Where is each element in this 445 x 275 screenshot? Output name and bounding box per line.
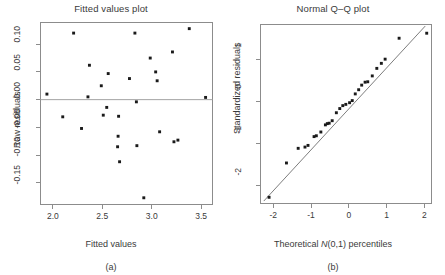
panel-fitted-values-plot: Fitted values plot Raw residuals 2.02.53…: [0, 0, 222, 275]
plot-canvas: [222, 0, 444, 275]
data-point: [285, 162, 288, 165]
data-point: [268, 196, 271, 199]
xlabel-prefix: Theoretical: [274, 239, 321, 249]
data-point: [335, 111, 338, 114]
panel-a-axes-overlay: 2.02.53.03.50.100.050.00-0.05-0.10-0.15: [0, 0, 222, 275]
y-tick-mark: [36, 155, 40, 156]
x-tick-label: -1: [307, 210, 315, 220]
data-point: [357, 88, 360, 91]
data-point: [156, 79, 159, 82]
panel-normal-qq-plot: Normal Q–Q plot Standardized residuals -…: [222, 0, 444, 275]
x-tick-label: 1: [384, 210, 389, 220]
data-point: [61, 115, 64, 118]
data-point: [338, 107, 341, 110]
data-point: [351, 99, 354, 102]
data-point: [331, 119, 334, 122]
panel-a-x-axis-label: Fitted values: [0, 239, 222, 249]
y-tick-label: 0: [233, 84, 243, 116]
data-point: [398, 37, 401, 40]
data-point: [133, 32, 136, 35]
x-tick-label: 2.5: [96, 211, 108, 221]
y-tick-mark: [36, 44, 40, 45]
data-point: [360, 84, 363, 87]
data-point: [118, 160, 121, 163]
x-tick-mark: [52, 205, 53, 209]
data-point: [425, 32, 428, 35]
data-point: [297, 147, 300, 150]
data-point: [158, 130, 161, 133]
x-tick-mark: [151, 205, 152, 209]
y-tick-mark: [256, 101, 260, 102]
panel-b-axes-overlay: -2-101210-1-2: [222, 0, 444, 275]
data-point: [80, 127, 83, 130]
data-point: [117, 135, 120, 138]
data-point: [45, 93, 48, 96]
data-point: [72, 32, 75, 35]
data-point: [116, 145, 119, 148]
data-point: [328, 122, 331, 125]
x-tick-mark: [311, 204, 312, 208]
data-point: [135, 100, 138, 103]
x-tick-label: 2: [422, 210, 427, 220]
data-point: [135, 144, 138, 147]
y-tick-label: -0.15: [12, 165, 22, 199]
y-tick-label: 1: [233, 43, 243, 75]
panel-b-caption: (b): [222, 262, 444, 272]
qq-reference-line: [264, 26, 425, 201]
x-tick-label: 2.0: [47, 211, 59, 221]
data-point: [307, 144, 310, 147]
data-point: [315, 134, 318, 137]
data-point: [344, 103, 347, 106]
data-point: [375, 67, 378, 70]
y-tick-label: -1: [233, 126, 243, 158]
y-tick-mark: [36, 182, 40, 183]
data-point: [105, 106, 108, 109]
data-point: [107, 72, 110, 75]
data-point: [188, 27, 191, 30]
data-point: [364, 81, 367, 84]
data-point: [176, 139, 179, 142]
x-tick-label: 3.0: [146, 211, 158, 221]
x-tick-label: 3.5: [195, 211, 207, 221]
data-point: [204, 96, 207, 99]
data-point: [384, 58, 387, 61]
data-point: [173, 140, 176, 143]
data-point: [100, 84, 103, 87]
data-point: [348, 101, 351, 104]
y-tick-mark: [256, 59, 260, 60]
panel-a-caption: (a): [0, 262, 222, 272]
x-tick-mark: [348, 204, 349, 208]
data-point: [128, 77, 131, 80]
data-point: [149, 57, 152, 60]
y-tick-label: -2: [233, 168, 243, 200]
y-tick-mark: [256, 185, 260, 186]
data-point: [371, 74, 374, 77]
data-point: [154, 70, 157, 73]
plot-canvas: [0, 0, 222, 275]
data-point: [366, 80, 369, 83]
data-point: [142, 196, 145, 199]
data-point: [380, 62, 383, 65]
x-tick-mark: [102, 205, 103, 209]
panel-b-x-axis-label: Theoretical N(0,1) percentiles: [222, 239, 444, 249]
y-tick-mark: [36, 127, 40, 128]
xlabel-suffix: (0,1) percentiles: [328, 239, 393, 249]
data-point: [341, 104, 344, 107]
y-tick-mark: [36, 99, 40, 100]
x-tick-label: -2: [269, 210, 277, 220]
data-point: [354, 92, 357, 95]
x-tick-label: 0: [346, 210, 351, 220]
data-point: [117, 115, 120, 118]
data-point: [171, 51, 174, 54]
x-tick-mark: [386, 204, 387, 208]
x-tick-mark: [273, 204, 274, 208]
x-tick-mark: [424, 204, 425, 208]
data-point: [304, 146, 307, 149]
data-point: [102, 114, 105, 117]
data-point: [87, 95, 90, 98]
x-tick-mark: [201, 205, 202, 209]
y-tick-mark: [36, 71, 40, 72]
data-point: [88, 64, 91, 67]
y-tick-mark: [256, 143, 260, 144]
data-point: [319, 131, 322, 134]
